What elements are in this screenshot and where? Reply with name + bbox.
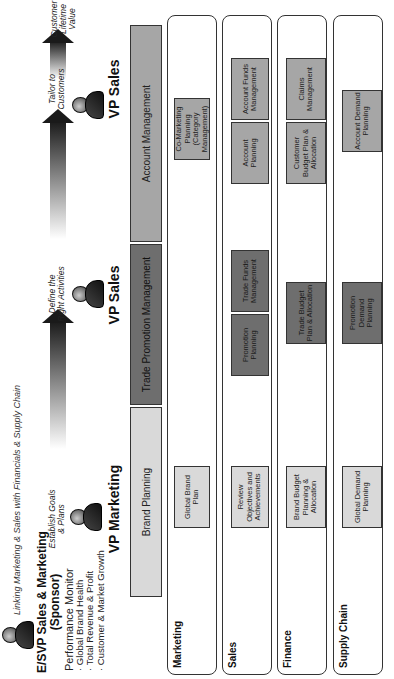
lane-label: Marketing xyxy=(172,621,183,668)
role-vp-marketing: VP Marketing xyxy=(106,449,122,569)
linking-text: Linking Marketing & Sales with Financial… xyxy=(12,385,22,615)
step-line: Value xyxy=(68,0,77,39)
process-box-co-marketing-planning: Co-Marketing Planning (Category Manageme… xyxy=(174,98,210,160)
process-box-global-demand-planning: Global Demand Planning xyxy=(342,466,382,528)
process-box-promotion-demand-planning: Promotion Demand Planning xyxy=(342,282,382,344)
process-box-customer-budget-plan: Customer Budget Plan & Allocation xyxy=(286,122,326,184)
performance-monitor: Performance Monitor · Global Brand Healt… xyxy=(64,550,106,671)
process-box-promotion-planning: Promotion Planning xyxy=(231,314,269,376)
role-vp-sales-1: VP Sales xyxy=(106,235,122,355)
process-box-account-funds-management: Account Funds Management xyxy=(231,58,269,120)
process-box-claims-management: Claims Management xyxy=(286,58,326,120)
lane-supply-chain: Supply Chain Global Demand Planning Prom… xyxy=(333,15,383,675)
vp-sales-person-icon xyxy=(72,93,102,119)
step-line: & Plans xyxy=(57,479,66,559)
band-trade-promotion-management: Trade Promotion Management xyxy=(130,244,162,405)
band-account-management: Account Management xyxy=(130,25,162,242)
role-vp-sales-2: VP Sales xyxy=(106,29,122,149)
lane-label: Finance xyxy=(282,630,293,668)
process-box-trade-budget-plan: Trade Budget Plan & Allocation xyxy=(286,282,326,344)
step-line: Right Activities xyxy=(57,249,66,339)
lane-label: Supply Chain xyxy=(338,604,349,668)
process-box-brand-budget-planning: Brand Budget Planning & Allocation xyxy=(286,466,326,528)
process-box-global-brand-plan: Global Brand Plan xyxy=(174,466,210,528)
monitor-title: Performance Monitor xyxy=(64,550,75,671)
lane-finance: Finance Brand Budget Planning & Allocati… xyxy=(277,15,327,675)
monitor-item: · Customer & Market Growth xyxy=(96,550,107,671)
lane-label: Sales xyxy=(227,642,238,668)
lane-marketing: Marketing Global Brand Plan Co-Marketing… xyxy=(167,15,217,675)
process-box-review-objectives: Review Objectives and Achievements xyxy=(231,466,269,528)
step-label-customer-lifetime-value: Customer Lifetime Value xyxy=(50,0,77,39)
vp-sales-person-icon xyxy=(72,282,102,308)
step-label-define-activities: Define the Right Activities xyxy=(48,249,66,339)
vp-marketing-person-icon xyxy=(70,505,100,531)
monitor-item: · Total Revenue & Profit xyxy=(85,550,96,671)
step-label-establish-goals: Establish Goals & Plans xyxy=(48,479,66,559)
process-box-account-demand-planning: Account Demand Planning xyxy=(342,90,382,152)
process-box-account-planning: Account Planning xyxy=(231,122,269,184)
sponsor-person-icon xyxy=(2,623,32,649)
band-brand-planning: Brand Planning xyxy=(130,407,162,597)
diagram-canvas: Linking Marketing & Sales with Financial… xyxy=(0,0,394,679)
lane-sales: Sales Review Objectives and Achievements… xyxy=(222,15,272,675)
arrow-icon xyxy=(42,109,74,239)
process-box-trade-funds-management: Trade Funds Management xyxy=(231,250,269,312)
